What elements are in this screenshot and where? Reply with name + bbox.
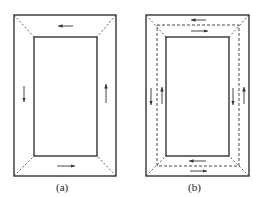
figure-a-label: (a)	[56, 181, 68, 193]
figure-b	[146, 15, 249, 176]
figure-a	[14, 15, 116, 176]
diagram-canvas	[0, 0, 262, 197]
figure-b-label: (b)	[188, 181, 201, 193]
